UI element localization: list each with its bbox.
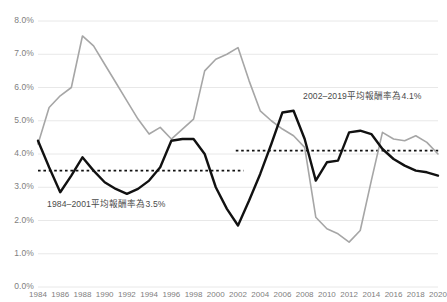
- x-axis-tick-label: 1998: [185, 290, 203, 299]
- x-axis-tick-label: 1988: [74, 290, 92, 299]
- y-axis-tick-label: 4.0%: [0, 148, 34, 158]
- x-axis-tick-label: 2000: [207, 290, 225, 299]
- y-axis-tick-label: 1.0%: [0, 248, 34, 258]
- y-axis-tick-label: 3.0%: [0, 181, 34, 191]
- x-axis-tick-label: 2010: [318, 290, 336, 299]
- x-axis-tick-label: 1992: [118, 290, 136, 299]
- y-axis-tick-label: 7.0%: [0, 48, 34, 58]
- x-axis-tick-label: 2018: [407, 290, 425, 299]
- x-axis-tick-label: 1994: [140, 290, 158, 299]
- x-axis-tick-label: 2004: [251, 290, 269, 299]
- x-axis-tick-label: 1984: [29, 290, 47, 299]
- annotation-avg-1984-2001: 1984–2001平均報酬率為3.5%: [47, 197, 166, 209]
- y-axis-tick-label: 2.0%: [0, 215, 34, 225]
- x-axis-tick-label: 2020: [429, 290, 447, 299]
- x-axis-tick-label: 1996: [162, 290, 180, 299]
- y-axis-tick-label: 5.0%: [0, 115, 34, 125]
- y-axis-tick-label: 8.0%: [0, 15, 34, 25]
- annotation-avg-2002-2019: 2002–2019平均報酬率為4.1%: [303, 89, 422, 101]
- x-axis-tick-label: 2016: [385, 290, 403, 299]
- x-axis-tick-label: 2008: [296, 290, 314, 299]
- series-line-grey-series: [38, 36, 438, 242]
- y-axis-tick-label: 6.0%: [0, 82, 34, 92]
- x-axis-tick-label: 2014: [362, 290, 380, 299]
- x-axis-tick-label: 1990: [96, 290, 114, 299]
- x-axis-tick-label: 2006: [274, 290, 292, 299]
- data-series-group: [38, 36, 438, 242]
- x-axis-tick-label: 2002: [229, 290, 247, 299]
- x-axis-tick-label: 2012: [340, 290, 358, 299]
- x-axis-tick-label: 1986: [51, 290, 69, 299]
